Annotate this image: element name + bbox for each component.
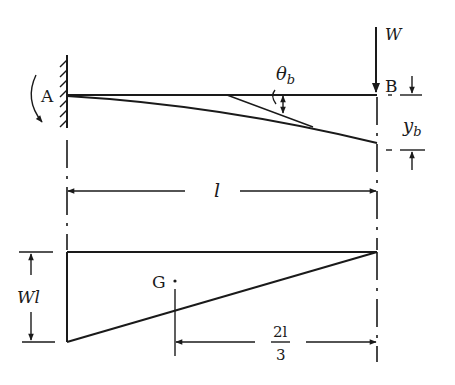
- free-end-label: B: [385, 76, 398, 96]
- fixed-end-label: A: [40, 86, 54, 106]
- load-label: W: [385, 25, 403, 44]
- moment-height-label: Wl: [17, 287, 40, 307]
- centroid-dot: [173, 279, 176, 282]
- tangent-line: [227, 95, 313, 127]
- length-label: l: [214, 179, 220, 201]
- slope-label: θb: [276, 63, 295, 87]
- centroid-distance-denominator: 3: [276, 346, 286, 364]
- centroid-label: G: [152, 272, 166, 292]
- bending-moment-diagram: [67, 252, 377, 342]
- deflection-label: yb: [402, 115, 422, 139]
- centroid-distance-numerator: 2l: [273, 323, 288, 341]
- cantilever-diagram: A θb W B yb l Wl G 2l 3: [0, 0, 455, 385]
- slope-angle-arc: [273, 90, 276, 104]
- fixed-support-wall: [60, 55, 67, 128]
- deflected-beam-curve: [67, 96, 377, 143]
